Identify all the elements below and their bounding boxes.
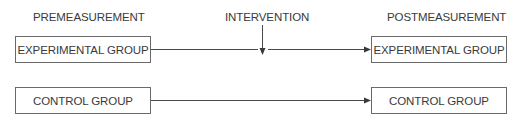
pre-experimental-group-box: EXPERIMENTAL GROUP xyxy=(15,36,151,63)
intervention-arrowhead-icon xyxy=(260,48,266,55)
post-control-group-label: CONTROL GROUP xyxy=(389,95,489,107)
post-experimental-group-label: EXPERIMENTAL GROUP xyxy=(373,44,504,56)
pre-control-group-label: CONTROL GROUP xyxy=(33,95,133,107)
pre-experimental-group-label: EXPERIMENTAL GROUP xyxy=(17,44,148,56)
post-control-group-box: CONTROL GROUP xyxy=(371,87,507,114)
control-arrowhead-icon xyxy=(364,98,371,104)
experimental-arrowhead-icon xyxy=(364,47,371,53)
pre-control-group-box: CONTROL GROUP xyxy=(15,87,151,114)
post-experimental-group-box: EXPERIMENTAL GROUP xyxy=(371,36,507,63)
